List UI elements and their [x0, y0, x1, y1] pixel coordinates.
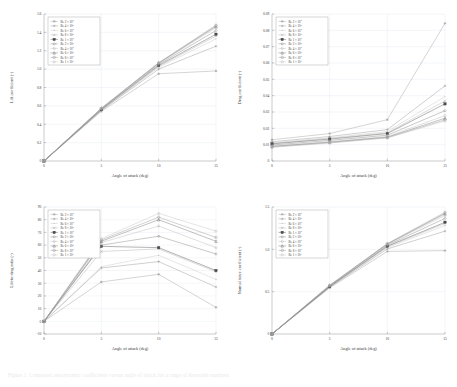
svg-text:Re 8 × 106: Re 8 × 106 [289, 55, 303, 59]
svg-text:Lift coefficient (-): Lift coefficient (-) [9, 71, 14, 103]
svg-text:Angle of attack (deg): Angle of attack (deg) [340, 346, 377, 351]
svg-text:Re 4 × 105: Re 4 × 105 [61, 24, 75, 28]
svg-text:30: 30 [38, 282, 42, 286]
svg-text:Re 6 × 106: Re 6 × 106 [61, 244, 75, 248]
svg-text:0: 0 [268, 332, 270, 336]
svg-text:10: 10 [386, 164, 390, 168]
svg-text:15: 15 [214, 337, 218, 341]
svg-text:0.8: 0.8 [37, 86, 42, 90]
svg-text:15: 15 [443, 337, 447, 341]
svg-text:Re 4 × 105: Re 4 × 105 [61, 217, 75, 221]
svg-text:0: 0 [40, 320, 42, 324]
panel-drag-coefficient: 05101500.010.020.030.040.050.060.070.080… [228, 0, 457, 193]
svg-text:Re 1 × 107: Re 1 × 107 [289, 253, 303, 257]
svg-text:1.0: 1.0 [265, 248, 270, 252]
svg-text:-10: -10 [37, 332, 42, 336]
svg-text:0.6: 0.6 [37, 104, 42, 108]
svg-text:0.05: 0.05 [263, 78, 269, 82]
svg-text:Re 1 × 106: Re 1 × 106 [289, 230, 303, 234]
svg-text:10: 10 [38, 307, 42, 311]
svg-text:Angle of attack (deg): Angle of attack (deg) [112, 346, 149, 351]
svg-text:Re 1 × 107: Re 1 × 107 [61, 60, 75, 64]
svg-text:10: 10 [386, 337, 390, 341]
svg-text:Re 1 × 107: Re 1 × 107 [289, 60, 303, 64]
svg-text:5: 5 [100, 337, 102, 341]
svg-text:Re 1 × 106: Re 1 × 106 [61, 37, 75, 41]
panel-lift-coefficient: 05101500.20.40.60.81.01.21.41.6Angle of … [0, 0, 228, 193]
svg-text:Re 8 × 105: Re 8 × 105 [61, 33, 75, 37]
svg-text:10: 10 [157, 164, 161, 168]
svg-text:1.5: 1.5 [265, 205, 270, 209]
svg-text:Re 4 × 105: Re 4 × 105 [289, 24, 303, 28]
svg-text:10: 10 [157, 337, 161, 341]
svg-text:Re 2 × 105: Re 2 × 105 [61, 19, 75, 23]
svg-text:40: 40 [38, 269, 42, 273]
svg-text:0.2: 0.2 [37, 141, 42, 145]
svg-text:60: 60 [38, 243, 42, 247]
svg-text:Re 1 × 106: Re 1 × 106 [289, 37, 303, 41]
svg-text:Re 4 × 106: Re 4 × 106 [61, 46, 75, 50]
svg-text:70: 70 [38, 231, 42, 235]
svg-text:0: 0 [43, 164, 45, 168]
svg-text:0: 0 [271, 164, 273, 168]
svg-text:Re 6 × 105: Re 6 × 105 [289, 28, 303, 32]
figure-root: 05101500.20.40.60.81.01.21.41.6Angle of … [0, 0, 457, 387]
svg-text:Re 8 × 106: Re 8 × 106 [289, 248, 303, 252]
svg-text:Angle of attack (deg): Angle of attack (deg) [340, 173, 377, 178]
svg-text:Re 2 × 106: Re 2 × 106 [61, 42, 75, 46]
svg-text:0: 0 [268, 159, 270, 163]
svg-text:1.2: 1.2 [37, 49, 42, 53]
svg-text:5: 5 [100, 164, 102, 168]
panel-normal-force-coefficient: 05101500.51.01.5Angle of attack (deg)Nor… [228, 193, 457, 366]
svg-text:Re 6 × 106: Re 6 × 106 [289, 244, 303, 248]
svg-text:Re 1 × 106: Re 1 × 106 [61, 230, 75, 234]
svg-text:Re 2 × 105: Re 2 × 105 [61, 212, 75, 216]
svg-text:0: 0 [271, 337, 273, 341]
svg-text:0: 0 [40, 159, 42, 163]
panel-lift-to-drag-ratio: 051015-100102030405060708090Angle of att… [0, 193, 228, 366]
svg-text:0.01: 0.01 [263, 143, 269, 147]
svg-text:15: 15 [214, 164, 218, 168]
svg-text:Re 4 × 106: Re 4 × 106 [289, 239, 303, 243]
svg-text:90: 90 [38, 205, 42, 209]
svg-text:Re 2 × 106: Re 2 × 106 [289, 42, 303, 46]
svg-text:0.02: 0.02 [263, 127, 269, 131]
svg-text:Re 6 × 106: Re 6 × 106 [289, 51, 303, 55]
svg-text:Re 2 × 106: Re 2 × 106 [289, 235, 303, 239]
svg-text:Re 4 × 106: Re 4 × 106 [289, 46, 303, 50]
svg-text:0.03: 0.03 [263, 110, 269, 114]
svg-text:Re 4 × 105: Re 4 × 105 [289, 217, 303, 221]
svg-text:15: 15 [443, 164, 447, 168]
svg-text:0.5: 0.5 [265, 290, 270, 294]
svg-text:Re 1 × 107: Re 1 × 107 [61, 253, 75, 257]
svg-text:5: 5 [329, 164, 331, 168]
svg-text:20: 20 [38, 294, 42, 298]
svg-text:0.07: 0.07 [263, 45, 269, 49]
svg-text:0.08: 0.08 [263, 29, 269, 33]
svg-text:1.6: 1.6 [37, 12, 42, 16]
svg-text:Re 8 × 106: Re 8 × 106 [61, 55, 75, 59]
svg-text:5: 5 [329, 337, 331, 341]
svg-text:0.04: 0.04 [263, 94, 269, 98]
svg-text:Re 8 × 105: Re 8 × 105 [289, 226, 303, 230]
svg-text:Re 6 × 105: Re 6 × 105 [61, 221, 75, 225]
svg-text:Angle of attack (deg): Angle of attack (deg) [112, 173, 149, 178]
svg-text:Re 6 × 105: Re 6 × 105 [289, 221, 303, 225]
svg-text:Re 6 × 106: Re 6 × 106 [61, 51, 75, 55]
svg-text:Re 8 × 105: Re 8 × 105 [61, 226, 75, 230]
svg-text:Re 2 × 105: Re 2 × 105 [289, 212, 303, 216]
svg-text:0: 0 [43, 337, 45, 341]
svg-text:50: 50 [38, 256, 42, 260]
svg-text:Re 4 × 106: Re 4 × 106 [61, 239, 75, 243]
subplot-grid: 05101500.20.40.60.81.01.21.41.6Angle of … [0, 0, 457, 366]
svg-text:1.0: 1.0 [37, 67, 42, 71]
svg-text:Re 2 × 105: Re 2 × 105 [289, 19, 303, 23]
figure-caption: Figure 1: Computed aerodynamic coefficie… [8, 372, 449, 385]
svg-text:Re 8 × 106: Re 8 × 106 [61, 248, 75, 252]
svg-text:Re 8 × 105: Re 8 × 105 [289, 33, 303, 37]
svg-text:0.09: 0.09 [263, 12, 269, 16]
svg-text:Lift-to-drag ratio (-): Lift-to-drag ratio (-) [9, 253, 14, 288]
svg-text:Normal force coefficient (-): Normal force coefficient (-) [237, 246, 242, 294]
svg-text:0.06: 0.06 [263, 61, 269, 65]
svg-text:1.4: 1.4 [37, 31, 42, 35]
